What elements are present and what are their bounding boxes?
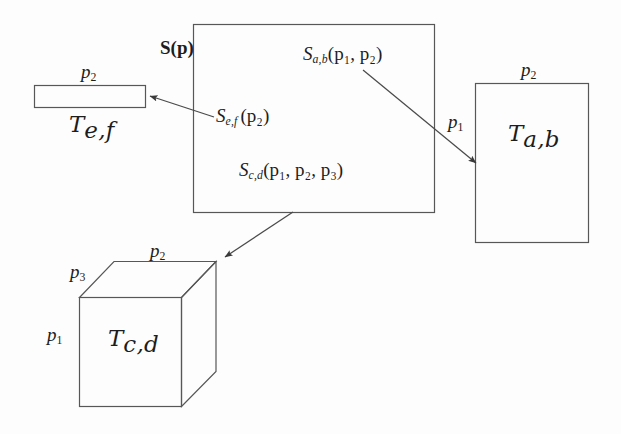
tile-cd-dim-p1-base: p bbox=[47, 324, 57, 345]
tile-cd-dim-p3-sub: 3 bbox=[80, 271, 86, 284]
mapping-s-ab-sub: a,b bbox=[313, 53, 328, 66]
tile-ab-rect bbox=[476, 84, 589, 243]
tile-cd-dim-p1-sub: 1 bbox=[57, 334, 63, 347]
tile-ab-dim-p1-base: p bbox=[448, 111, 458, 132]
mapping-s-ef-sub: e,f bbox=[226, 115, 238, 128]
tile-ab-dim-p2-base: p bbox=[521, 59, 531, 80]
tile-cd-dim-p2-sub: 2 bbox=[160, 250, 166, 263]
tile-ab-name-label: Ta,b bbox=[508, 122, 560, 151]
tile-ab-dim-p2-label: p2 bbox=[521, 60, 536, 82]
tile-cd-name-base: T bbox=[108, 325, 123, 351]
mapping-s-ab-args: (p₁, p₂) bbox=[328, 43, 382, 64]
tile-cd-name-sub: c,d bbox=[123, 331, 159, 357]
arrow-s-cd-to-tile-cd bbox=[225, 212, 293, 257]
mapping-s-cd-base: S bbox=[239, 159, 249, 180]
mapping-s-ef-label: Se,f(p₂) bbox=[216, 106, 269, 128]
mapping-s-cd-args: (p₁, p₂, p₃) bbox=[263, 159, 343, 180]
mapping-s-ef-base: S bbox=[216, 105, 226, 126]
tile-cd-dim-p1-label: p1 bbox=[47, 325, 62, 347]
mapping-s-ab-base: S bbox=[303, 43, 313, 64]
tile-ef-dim-p2-base: p bbox=[81, 61, 91, 82]
tile-ef-name-label: Te,f bbox=[69, 113, 114, 142]
tile-cd-dim-p2-label: p2 bbox=[150, 241, 165, 263]
tile-cd-name-label: Tc,d bbox=[108, 327, 159, 356]
tile-ef-name-sub: e,f bbox=[84, 117, 114, 143]
mapping-s-cd-sub: c,d bbox=[249, 169, 264, 182]
cube-top-face bbox=[80, 262, 217, 298]
tile-ef-dim-p2-sub: 2 bbox=[91, 71, 97, 84]
arrow-s-ef-to-tile-ef bbox=[150, 96, 214, 117]
tile-cd-dim-p3-base: p bbox=[70, 261, 80, 282]
cube-right-face bbox=[182, 262, 217, 407]
figure-canvas: S(p) p2 Te,f Se,f(p₂) Sa,b(p₁, p₂) Sc,d(… bbox=[0, 0, 621, 434]
tile-ab-name-sub: a,b bbox=[523, 126, 559, 152]
mapping-s-ef-args: (p₂) bbox=[241, 105, 270, 126]
tile-ab-dim-p1-label: p1 bbox=[448, 112, 463, 134]
tile-ef-dim-p2-label: p2 bbox=[81, 62, 96, 84]
tile-ab-name-base: T bbox=[508, 120, 523, 146]
tile-cd-dim-p2-base: p bbox=[150, 240, 160, 261]
mapping-s-ab-label: Sa,b(p₁, p₂) bbox=[303, 44, 382, 66]
source-rect-label: S(p) bbox=[160, 38, 194, 57]
tile-ef-rect bbox=[35, 86, 146, 108]
tile-ab-dim-p1-sub: 1 bbox=[458, 121, 464, 134]
tile-cd-dim-p3-label: p3 bbox=[70, 262, 85, 284]
mapping-s-cd-label: Sc,d(p₁, p₂, p₃) bbox=[239, 160, 343, 182]
tile-ab-dim-p2-sub: 2 bbox=[531, 69, 537, 82]
tile-ef-name-base: T bbox=[69, 111, 84, 137]
